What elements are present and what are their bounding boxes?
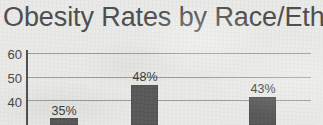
chart-title: Obesity Rates by Race/Ethnicity [3, 0, 323, 35]
bar-value-label-1: 35% [44, 104, 84, 118]
y-tick-label-50: 50 [0, 71, 22, 86]
chart-screenshot: Obesity Rates by Race/Ethnicity 60 50 40… [0, 0, 323, 125]
bar-3[interactable] [249, 97, 276, 125]
y-tick-label-40: 40 [0, 95, 22, 110]
y-tick-label-60: 60 [0, 47, 22, 62]
bar-value-label-3: 43% [243, 82, 283, 96]
gridline-60 [27, 53, 311, 54]
y-axis-line [26, 50, 28, 125]
gridline-50 [27, 77, 311, 78]
bar-1[interactable] [50, 118, 78, 125]
bar-2[interactable] [131, 85, 158, 125]
bar-value-label-2: 48% [125, 70, 165, 84]
